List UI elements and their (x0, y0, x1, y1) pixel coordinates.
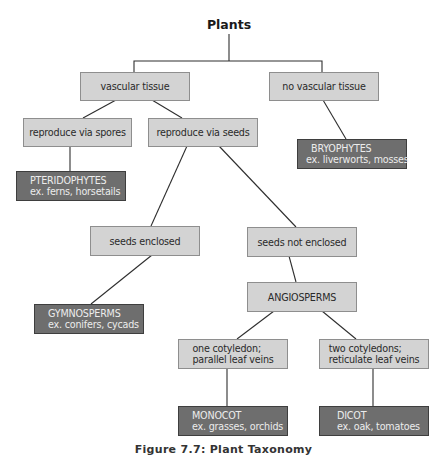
group-examples: ex. grasses, orchids (192, 421, 283, 432)
node-label: no vascular tissue (282, 81, 365, 92)
node-label-line2: parallel leaf veins (192, 354, 273, 365)
node-label: reproduce via seeds (156, 127, 249, 138)
node-angiosperms: ANGIOSPERMS (247, 282, 357, 312)
node-reproduce-via-spores: reproduce via spores (23, 118, 132, 147)
group-bryophytes: BRYOPHYTES ex. liverworts, mosses (297, 139, 407, 169)
edge-plants-branch (134, 61, 322, 72)
edge-seeds-enclosed (151, 146, 187, 226)
node-label: ANGIOSPERMS (268, 292, 336, 303)
node-no-vascular-tissue: no vascular tissue (269, 72, 379, 101)
edge-angio-two (322, 311, 356, 339)
node-label: vascular tissue (101, 81, 170, 92)
plant-taxonomy-diagram: Plants vascular tissue no vascular tissu… (0, 0, 447, 455)
node-two-cotyledons: two cotyledons; reticulate leaf veins (319, 339, 429, 369)
node-label: seeds enclosed (110, 236, 181, 247)
group-monocot: MONOCOT ex. grasses, orchids (178, 406, 288, 436)
group-name: DICOT (337, 410, 366, 421)
edge-vascular-seeds (152, 100, 182, 118)
edge-seeds-notenclosed (219, 146, 296, 227)
edge-angio-one (237, 311, 274, 339)
group-name: PTERIDOPHYTES (30, 175, 106, 186)
node-label-line2: reticulate leaf veins (329, 354, 420, 365)
group-examples: ex. ferns, horsetails (30, 186, 120, 197)
group-examples: ex. liverworts, mosses (306, 154, 409, 165)
node-label: reproduce via spores (29, 127, 126, 138)
node-label-line1: two cotyledons; (329, 343, 420, 354)
node-reproduce-via-seeds: reproduce via seeds (148, 118, 258, 147)
diagram-title: Plants (199, 17, 259, 32)
group-pteridophytes: PTERIDOPHYTES ex. ferns, horsetails (16, 171, 126, 201)
figure-caption: Figure 7.7: Plant Taxonomy (0, 443, 447, 455)
group-name: MONOCOT (192, 410, 241, 421)
group-examples: ex. conifers, cycads (48, 319, 139, 330)
edge-novascular-bryophytes (323, 100, 346, 139)
group-gymnosperms: GYMNOSPERMS ex. conifers, cycads (34, 304, 144, 334)
node-seeds-not-enclosed: seeds not enclosed (247, 227, 357, 257)
connector-lines (0, 0, 447, 455)
node-one-cotyledon: one cotyledon; parallel leaf veins (178, 339, 288, 369)
group-dicot: DICOT ex. oak, tomatoes (319, 406, 429, 436)
node-label-line1: one cotyledon; (192, 343, 273, 354)
node-vascular-tissue: vascular tissue (80, 72, 190, 101)
group-examples: ex. oak, tomatoes (337, 421, 420, 432)
node-seeds-enclosed: seeds enclosed (90, 226, 200, 256)
group-name: GYMNOSPERMS (48, 308, 121, 319)
group-name: BRYOPHYTES (311, 143, 371, 154)
edge-vascular-spores (83, 100, 116, 118)
edge-enclosed-gymnosperms (91, 255, 152, 304)
edge-notenclosed-angiosperms (289, 256, 296, 282)
node-label: seeds not enclosed (258, 237, 347, 248)
